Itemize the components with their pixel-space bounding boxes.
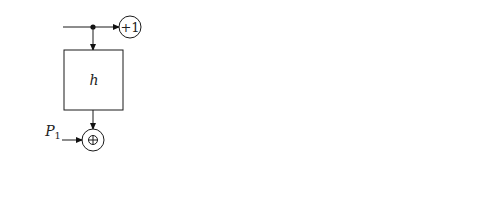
diagram-canvas: +1hP1 bbox=[0, 0, 494, 203]
stages: +1hP1 bbox=[44, 16, 141, 151]
input-label-main: P1 bbox=[44, 123, 61, 141]
stage-1 bbox=[62, 16, 141, 151]
hash-label: h bbox=[89, 72, 98, 88]
increment-label: +1 bbox=[120, 20, 139, 35]
